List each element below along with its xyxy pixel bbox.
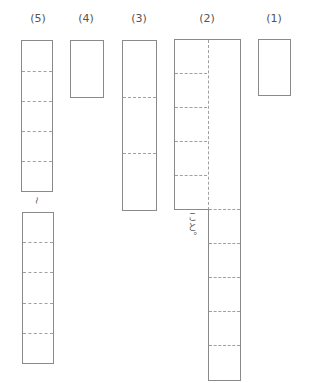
cell-divider [209,277,240,278]
answer-box-4[interactable] [70,40,104,98]
answer-box-3[interactable] [122,40,157,211]
cell-divider [23,333,53,334]
cell-divider [209,209,240,210]
answer-suffix-text: こと。 [186,212,199,242]
question-label-1: (1) [266,12,282,25]
cell-divider [23,303,53,304]
cell-divider [23,272,53,273]
cell-divider [209,243,240,244]
question-label-2: (2) [199,12,215,25]
answer-box-2-right[interactable] [208,39,241,381]
cell-divider [22,101,52,102]
cell-divider [209,311,240,312]
answer-box-5-lower[interactable] [22,212,54,364]
box-edge [208,209,209,381]
answer-box-1[interactable] [258,39,291,96]
continuation-mark: ~ [31,195,43,205]
answer-box-2-left[interactable] [174,39,209,210]
cell-divider [22,71,52,72]
cell-divider [22,161,52,162]
question-label-3: (3) [131,12,147,25]
cell-divider [123,153,156,154]
cell-divider [209,345,240,346]
cell-divider [22,131,52,132]
column-divider [208,40,209,210]
question-label-5: (5) [30,12,46,25]
question-label-4: (4) [78,12,94,25]
cell-divider [23,242,53,243]
answer-box-5-upper[interactable] [21,40,53,192]
cell-divider [123,97,156,98]
